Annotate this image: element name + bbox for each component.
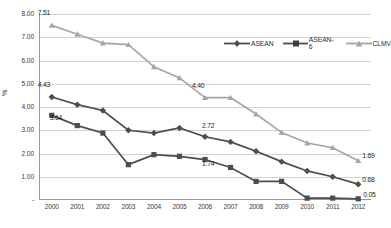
- data-point-asean: [151, 130, 157, 136]
- data-point-asean-6: [100, 130, 105, 135]
- data-point-asean: [355, 181, 361, 187]
- data-label: 0.05: [363, 191, 375, 198]
- data-point-asean: [278, 158, 284, 164]
- data-label: 1.74: [202, 160, 214, 167]
- x-axis-tick-label: 2012: [341, 203, 375, 210]
- data-point-asean: [74, 101, 80, 107]
- data-point-asean: [49, 94, 55, 100]
- data-point-asean-6: [126, 162, 131, 167]
- data-label: 2.72: [202, 122, 214, 129]
- chart-legend: ASEAN ASEAN-6 CLMV: [224, 36, 391, 50]
- data-point-asean: [202, 134, 208, 140]
- data-label: 1.69: [362, 152, 374, 159]
- legend-marker-diamond-icon: [224, 39, 250, 48]
- data-point-asean-6: [305, 196, 310, 201]
- legend-item-asean[interactable]: ASEAN: [224, 39, 274, 48]
- data-label: 3.64: [50, 114, 62, 121]
- data-point-asean-6: [75, 123, 80, 128]
- data-point-asean: [176, 125, 182, 131]
- legend-label-asean-6: ASEAN-6: [309, 36, 337, 50]
- data-point-asean: [227, 139, 233, 145]
- data-point-asean-6: [177, 154, 182, 159]
- data-point-asean: [253, 148, 259, 154]
- data-point-asean: [304, 168, 310, 174]
- legend-label-asean: ASEAN: [251, 40, 274, 47]
- data-label: 4.43: [38, 81, 50, 88]
- data-point-asean-6: [356, 196, 361, 201]
- legend-marker-triangle-icon: [346, 39, 372, 48]
- legend-label-clmv: CLMV: [373, 40, 391, 47]
- series-line-asean: [52, 97, 358, 184]
- legend-item-asean-6[interactable]: ASEAN-6: [283, 36, 337, 50]
- data-point-asean: [329, 174, 335, 180]
- data-point-asean-6: [228, 165, 233, 170]
- data-point-asean-6: [253, 179, 258, 184]
- data-point-clmv: [49, 22, 55, 27]
- data-point-asean-6: [279, 179, 284, 184]
- data-point-asean-6: [330, 196, 335, 201]
- data-label: 0.68: [362, 176, 374, 183]
- legend-marker-square-icon: [283, 39, 308, 48]
- legend-item-clmv[interactable]: CLMV: [346, 39, 391, 48]
- data-point-asean-6: [151, 152, 156, 157]
- data-label: 4.40: [192, 82, 204, 89]
- data-label: 7.51: [38, 9, 50, 16]
- line-chart: % 8.007.006.005.004.003.002.001.00- 2000…: [0, 0, 391, 228]
